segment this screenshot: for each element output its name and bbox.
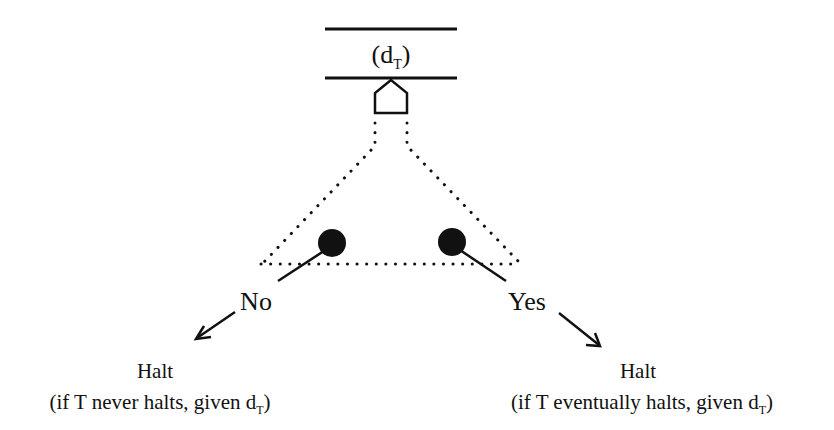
tape-cell-label: (dT) bbox=[372, 40, 411, 72]
yes-result-caption: (if T eventually halts, given dT) bbox=[511, 390, 773, 417]
no-result-caption: (if T never halts, given dT) bbox=[49, 390, 270, 417]
read-head-icon bbox=[375, 80, 407, 113]
halting-machine-diagram: (dT) No Halt (if T never halts, given dT… bbox=[0, 0, 834, 430]
no-arrow-icon bbox=[196, 312, 235, 339]
no-lever-ball-icon bbox=[318, 229, 346, 257]
yes-lever bbox=[438, 228, 506, 281]
no-lever bbox=[278, 229, 346, 281]
yes-arrow-icon bbox=[559, 313, 600, 346]
machine-body-outline bbox=[261, 123, 520, 264]
yes-result-title: Halt bbox=[620, 359, 656, 383]
no-label: No bbox=[240, 287, 272, 316]
no-result-title: Halt bbox=[137, 359, 173, 383]
yes-lever-ball-icon bbox=[438, 228, 466, 256]
yes-label: Yes bbox=[508, 287, 546, 316]
tape: (dT) bbox=[325, 29, 457, 78]
